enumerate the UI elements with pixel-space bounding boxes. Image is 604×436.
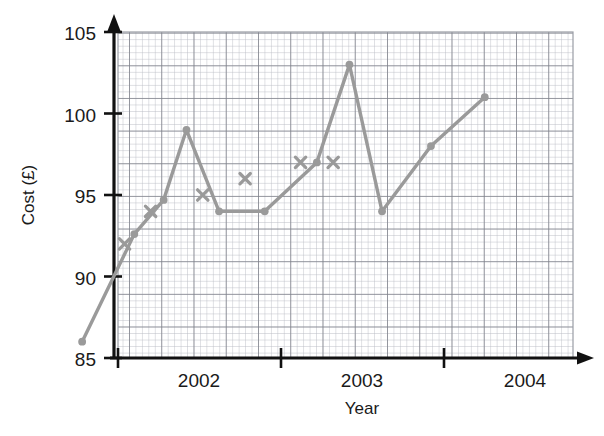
- data-point-dot: [481, 93, 489, 101]
- data-point-dot: [160, 196, 168, 204]
- y-tick-label-95: 95: [75, 186, 96, 207]
- data-point-dot: [427, 142, 435, 150]
- data-point-dot: [215, 207, 223, 215]
- data-point-dot: [261, 207, 269, 215]
- data-point-dot: [78, 338, 86, 346]
- data-point-dot: [313, 159, 321, 167]
- y-tick-label-100: 100: [64, 105, 96, 126]
- chart-container: 105 100 95 90 85 2002 2003 2004 Year Cos…: [0, 0, 604, 436]
- data-point-dot: [183, 126, 191, 134]
- line-chart: 105 100 95 90 85 2002 2003 2004 Year Cos…: [0, 0, 604, 436]
- y-tick-label-85: 85: [75, 349, 96, 370]
- y-axis-title: Cost (£): [19, 165, 38, 225]
- x-tick-label-2003: 2003: [341, 370, 383, 391]
- data-point-dot: [130, 230, 138, 238]
- x-tick-label-2002: 2002: [178, 370, 220, 391]
- x-axis-title: Year: [345, 399, 380, 418]
- data-point-dot: [346, 61, 354, 69]
- y-tick-label-90: 90: [75, 268, 96, 289]
- y-tick-label-105: 105: [64, 23, 96, 44]
- x-tick-label-2004: 2004: [504, 370, 547, 391]
- data-point-dot: [378, 207, 386, 215]
